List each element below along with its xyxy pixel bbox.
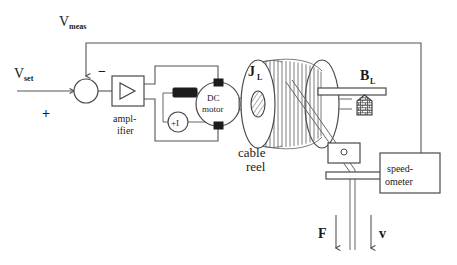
speedometer: speed- ometer	[380, 153, 440, 193]
label-vset: V	[14, 66, 24, 81]
label-speedometer-line1: speed-	[387, 163, 413, 174]
label-vset-subscript: set	[24, 74, 34, 83]
damping-bar	[318, 88, 386, 95]
summing-junction	[74, 79, 98, 103]
label-inertia-subscript: L	[257, 73, 262, 82]
label-amplifier-line2: ifier	[117, 125, 134, 136]
schematic-diagram: V meas V set + − ampl- ifier +I D	[0, 0, 457, 265]
speedometer-linkage	[326, 172, 384, 179]
label-reel-line1: cable	[238, 145, 266, 160]
current-source: +I	[168, 112, 188, 132]
label-velocity: v	[379, 226, 386, 241]
resistor	[173, 88, 197, 97]
motor-terminal-top-icon	[214, 79, 223, 86]
cable-guide-roller-icon	[341, 149, 347, 155]
label-vmeas-subscript: meas	[69, 22, 86, 31]
cable-guide	[328, 143, 360, 163]
reel-hub	[251, 91, 265, 117]
label-amplifier-line1: ampl-	[113, 113, 136, 124]
label-vmeas: V	[59, 14, 69, 29]
motor-terminal-bottom-icon	[214, 122, 223, 129]
label-current-source: +I	[171, 118, 179, 128]
amplifier	[112, 76, 144, 106]
label-sum-plus: +	[42, 106, 50, 121]
label-damping: B	[360, 68, 369, 83]
ground-block	[357, 95, 372, 115]
label-speedometer-line2: ometer	[385, 176, 413, 187]
label-motor-line2: motor	[202, 104, 224, 114]
label-damping-subscript: L	[370, 77, 375, 86]
label-reel-line2: reel	[246, 159, 266, 174]
cable-reel-control-schematic: V meas V set + − ampl- ifier +I D	[0, 0, 457, 265]
label-force: F	[318, 226, 327, 241]
label-motor-line1: DC	[207, 93, 220, 103]
label-inertia: J	[248, 64, 255, 79]
label-sum-minus: −	[98, 64, 106, 79]
